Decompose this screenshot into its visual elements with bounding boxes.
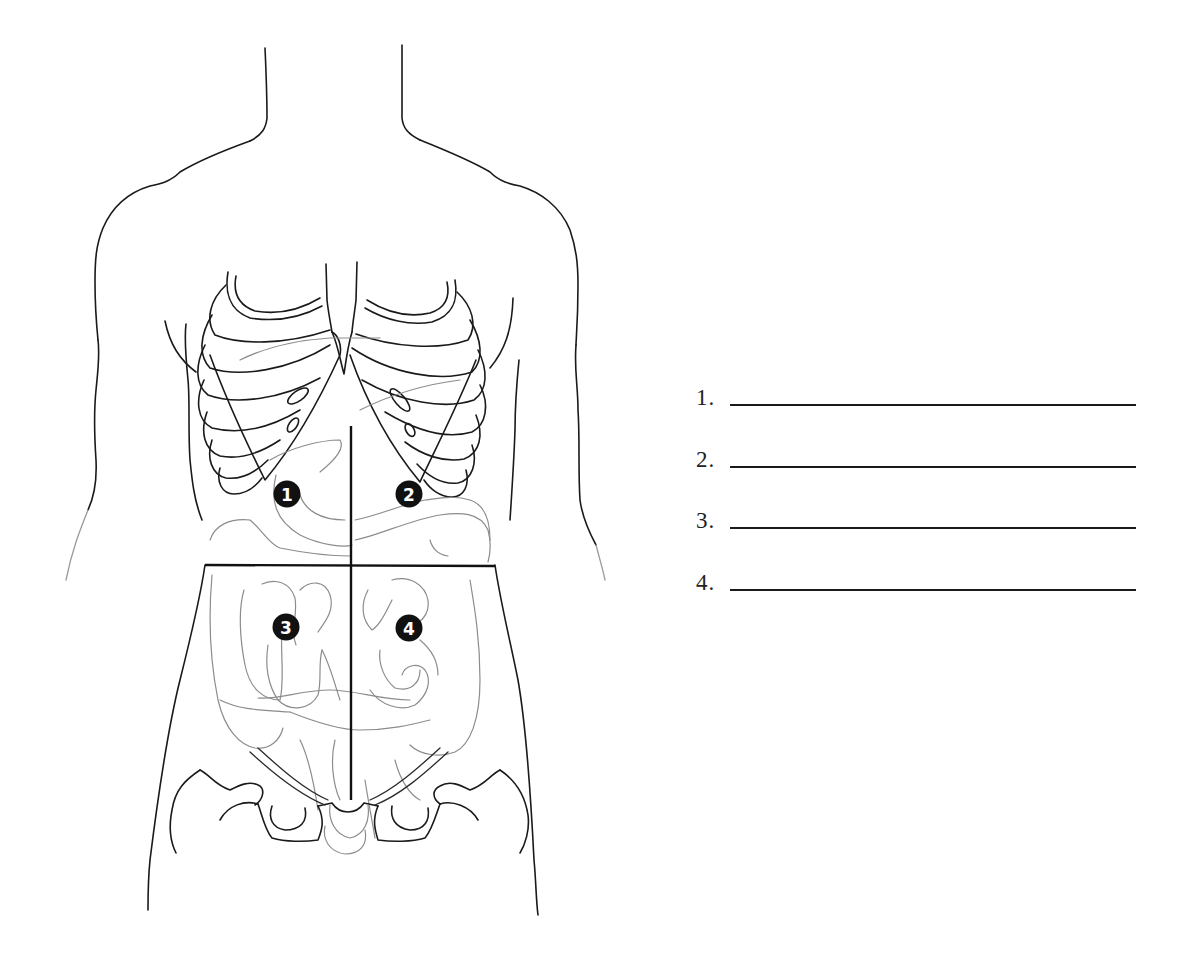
svg-text:4: 4 [403, 619, 415, 639]
answer-row-3: 3. [696, 507, 1136, 569]
pelvis [170, 748, 528, 853]
svg-text:1: 1 [281, 485, 293, 505]
answer-row-2: 2. [696, 446, 1136, 508]
answer-number: 3. [696, 507, 726, 535]
answer-blank-2[interactable] [730, 466, 1136, 468]
marker-1: 1 [274, 481, 301, 508]
marker-2: 2 [396, 481, 423, 508]
marker-3: 3 [273, 614, 300, 641]
answer-list: 1. 2. 3. 4. [696, 384, 1136, 630]
answer-number: 4. [696, 569, 726, 597]
svg-text:3: 3 [280, 618, 292, 638]
answer-number: 2. [696, 446, 726, 474]
answer-row-4: 4. [696, 569, 1136, 631]
answer-blank-1[interactable] [730, 404, 1136, 406]
marker-4: 4 [396, 615, 423, 642]
horizontal-umbilical-line [205, 565, 495, 566]
quadrant-dividers [205, 426, 495, 800]
ribcage [198, 262, 486, 497]
answer-blank-4[interactable] [730, 589, 1136, 591]
answer-blank-3[interactable] [730, 527, 1136, 529]
svg-text:2: 2 [403, 485, 415, 505]
answer-number: 1. [696, 384, 726, 412]
answer-row-1: 1. [696, 384, 1136, 446]
